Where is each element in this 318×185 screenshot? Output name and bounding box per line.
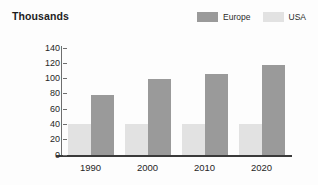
legend-item-usa: USA	[263, 12, 306, 22]
bar-europe	[91, 95, 114, 155]
chart-legend: Europe USA	[197, 12, 306, 22]
x-axis-line	[56, 155, 292, 157]
plot-area	[62, 48, 290, 155]
y-axis-tick-label: 120	[45, 59, 63, 68]
x-axis-label: 2010	[176, 162, 233, 173]
x-axis-label: 2000	[119, 162, 176, 173]
bar-group	[62, 48, 119, 155]
bar-usa	[125, 124, 148, 155]
legend-label-usa: USA	[289, 12, 306, 22]
bar-europe	[205, 74, 228, 155]
bar-group	[233, 48, 290, 155]
legend-item-europe: Europe	[197, 12, 250, 22]
bar-usa	[239, 124, 262, 155]
legend-swatch-europe	[197, 12, 218, 22]
x-axis-label: 1990	[62, 162, 119, 173]
bar-usa	[182, 124, 205, 155]
bar-europe	[262, 65, 285, 155]
chart-title: Thousands	[12, 10, 69, 22]
bar-europe	[148, 79, 171, 155]
bar-usa	[68, 124, 91, 155]
bar-group	[176, 48, 233, 155]
bar-chart: Thousands Europe USA 020406080100120140 …	[0, 0, 318, 185]
y-axis-tick-label: 100	[45, 74, 63, 83]
legend-swatch-usa	[263, 12, 284, 22]
x-axis-label: 2020	[233, 162, 290, 173]
legend-label-europe: Europe	[223, 12, 250, 22]
y-axis-tick-label: 140	[45, 44, 63, 53]
bar-group	[119, 48, 176, 155]
